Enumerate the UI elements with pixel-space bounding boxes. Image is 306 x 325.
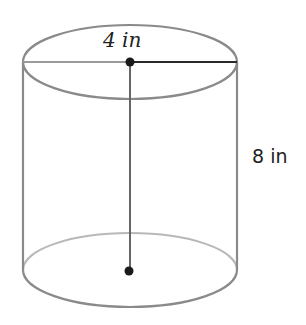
cylinder-diagram: 4 in 8 in <box>0 0 306 325</box>
height-label: 8 in <box>252 145 287 167</box>
top-center-dot <box>126 58 135 67</box>
bottom-center-dot <box>125 267 134 276</box>
bottom-ellipse-front <box>23 270 237 307</box>
radius-label: 4 in <box>102 28 141 52</box>
